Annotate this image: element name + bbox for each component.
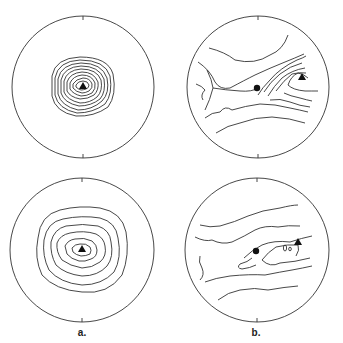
- dot-marker: [254, 85, 260, 91]
- triangle-marker: [79, 82, 87, 89]
- triangle-marker: [78, 245, 86, 252]
- label-a: a.: [78, 327, 86, 338]
- stereonet-figure: [0, 0, 343, 343]
- label-b: b.: [252, 327, 261, 338]
- triangle-marker: [298, 73, 306, 80]
- dot-marker: [253, 248, 259, 254]
